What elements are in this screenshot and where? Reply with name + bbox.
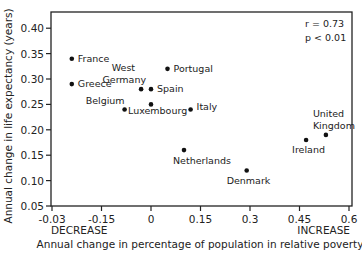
data-point [182,148,187,153]
y-tick-label: 0.10 [21,175,44,187]
data-points: FranceGreeceWestGermanySpainBelgiumLuxem… [70,53,355,187]
y-tick-label: 0.15 [21,149,44,161]
data-point [304,138,309,143]
data-point [70,56,75,61]
x-axis-title: Annual change in percentage of populatio… [37,238,362,250]
x-tick-label: 0 [148,213,155,225]
scatter-chart: -0.03-0.1500.150.30.450.6 0.050.100.150.… [0,0,362,262]
y-tick-label: 0.20 [21,124,44,136]
y-axis: 0.050.100.150.200.250.300.350.40 [21,22,51,212]
x-tick-label: 0.15 [189,213,212,225]
y-tick-label: 0.40 [21,22,44,34]
point-label: Italy [197,101,218,112]
y-tick-label: 0.35 [21,48,44,60]
data-point [324,133,329,138]
data-point [122,107,127,112]
r-value-annotation: r = 0.73 [305,18,344,29]
x-axis: -0.03-0.1500.150.30.450.6 [38,206,357,225]
y-tick-label: 0.25 [21,98,44,110]
data-point [244,168,249,173]
p-value-annotation: p < 0.01 [305,32,346,43]
point-label: Kingdom [313,120,355,131]
data-point [70,82,75,87]
point-label: Spain [157,83,184,94]
x-increase-note: INCREASE [297,224,350,236]
point-label: Ireland [292,144,325,155]
x-tick-label: 0.3 [242,213,259,225]
y-tick-label: 0.05 [21,200,44,212]
y-tick-label: 0.30 [21,73,44,85]
point-label: Denmark [227,175,271,186]
y-axis-title: Annual change in life expectancy (years) [2,8,14,223]
point-label: Portugal [174,63,213,74]
point-label: Netherlands [173,155,231,166]
point-label: Germany [102,74,146,85]
data-point [188,107,193,112]
data-point [139,87,144,92]
point-label: Luxembourg [128,105,187,116]
point-label: France [78,53,110,64]
data-point [165,67,170,72]
point-label: West [112,62,136,73]
point-label: Belgium [86,95,125,106]
point-label: United [313,108,344,119]
data-point [149,87,154,92]
x-decrease-note: DECREASE [51,224,107,236]
